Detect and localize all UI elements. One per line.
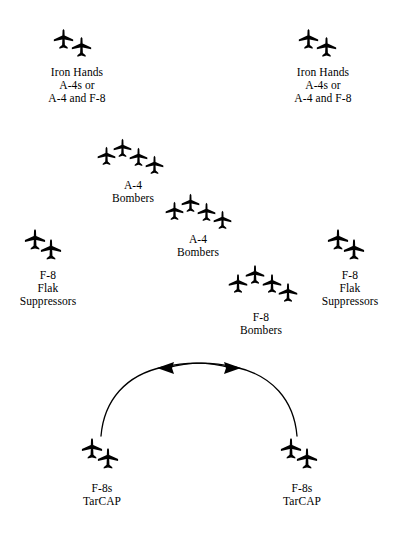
label-line: Iron Hands	[268, 66, 378, 79]
label-line: Bombers	[163, 246, 233, 259]
label-line: Suppressors	[0, 295, 96, 308]
aircraft-icon	[144, 155, 165, 176]
label-line: TarCAP	[262, 495, 342, 508]
formation-diagram: Iron Hands A-4s or A-4 and F-8 Iron Hand…	[0, 0, 398, 535]
label-line: A-4s or	[268, 79, 378, 92]
label-f8-flak-suppressors-left: F-8 Flak Suppressors	[0, 269, 96, 307]
group-iron-hands-right	[297, 28, 345, 58]
aircraft-formation-a4-bombers-upper	[96, 138, 168, 176]
label-line: A-4 and F-8	[268, 92, 378, 105]
aircraft-formation-a4-bombers-lower	[164, 193, 236, 231]
label-line: Iron Hands	[22, 66, 132, 79]
aircraft-icon	[295, 447, 319, 471]
aircraft-formation-flak-left	[23, 228, 71, 260]
label-line: F-8s	[62, 482, 142, 495]
label-iron-hands-right: Iron Hands A-4s or A-4 and F-8	[268, 66, 378, 104]
label-line: Flak	[302, 282, 398, 295]
group-a4-bombers-upper	[96, 138, 168, 176]
label-line: F-8	[226, 311, 296, 324]
aircraft-icon	[96, 447, 120, 471]
label-line: F-8	[302, 269, 398, 282]
label-line: F-8s	[262, 482, 342, 495]
tarcap-arc-left-to-right	[101, 363, 231, 436]
label-line: Bombers	[98, 192, 168, 205]
label-line: TarCAP	[62, 495, 142, 508]
label-a4-bombers-lower: A-4 Bombers	[163, 233, 233, 259]
aircraft-icon	[342, 238, 366, 262]
group-f8s-tarcap-right	[279, 437, 327, 469]
label-f8s-tarcap-left: F-8s TarCAP	[62, 482, 142, 508]
group-f8s-tarcap-left	[80, 437, 128, 469]
aircraft-formation-flak-right	[326, 228, 374, 260]
aircraft-icon	[39, 238, 63, 262]
aircraft-formation-tarcap-left	[80, 437, 128, 469]
group-iron-hands-left	[52, 28, 100, 58]
label-f8s-tarcap-right: F-8s TarCAP	[262, 482, 342, 508]
tarcap-arrowhead-left	[157, 362, 174, 374]
tarcap-arrowhead-right	[224, 362, 241, 374]
group-f8-flak-suppressors-left	[23, 228, 71, 260]
aircraft-icon	[315, 36, 338, 59]
label-a4-bombers-upper: A-4 Bombers	[98, 179, 168, 205]
aircraft-formation-iron-hands-right	[297, 28, 345, 58]
tarcap-arc-right-to-left	[167, 363, 297, 436]
label-iron-hands-left: Iron Hands A-4s or A-4 and F-8	[22, 66, 132, 104]
label-line: A-4	[98, 179, 168, 192]
aircraft-icon	[212, 210, 233, 231]
aircraft-icon	[277, 282, 299, 304]
label-line: Suppressors	[302, 295, 398, 308]
group-f8-bombers	[227, 264, 301, 304]
group-a4-bombers-lower	[164, 193, 236, 231]
label-f8-bombers: F-8 Bombers	[226, 311, 296, 337]
label-line: Flak	[0, 282, 96, 295]
label-line: A-4	[163, 233, 233, 246]
aircraft-formation-iron-hands-left	[52, 28, 100, 58]
aircraft-icon	[70, 36, 93, 59]
aircraft-formation-tarcap-right	[279, 437, 327, 469]
aircraft-formation-f8-bombers	[227, 264, 301, 304]
label-line: Bombers	[226, 324, 296, 337]
group-f8-flak-suppressors-right	[326, 228, 374, 260]
label-line: A-4 and F-8	[22, 92, 132, 105]
label-f8-flak-suppressors-right: F-8 Flak Suppressors	[302, 269, 398, 307]
label-line: A-4s or	[22, 79, 132, 92]
label-line: F-8	[0, 269, 96, 282]
